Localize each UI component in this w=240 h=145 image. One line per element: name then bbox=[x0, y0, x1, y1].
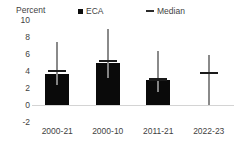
median-marker bbox=[200, 72, 218, 74]
y-axis-tick-label: 8 bbox=[4, 33, 30, 42]
chart-series-group bbox=[83, 20, 134, 122]
square-marker-icon bbox=[78, 9, 83, 14]
y-axis-tick-labels: 1086420-2 bbox=[0, 20, 30, 122]
median-marker bbox=[149, 78, 167, 80]
error-bar-whisker-overlay bbox=[56, 42, 58, 85]
x-axis-tick-label: 2000-21 bbox=[32, 126, 83, 137]
y-axis-tick-label: -2 bbox=[4, 118, 30, 127]
error-bar-whisker-overlay bbox=[107, 29, 109, 78]
chart-series-group bbox=[184, 20, 235, 122]
legend-label-median: Median bbox=[157, 6, 185, 16]
error-bar-whisker-overlay bbox=[208, 55, 210, 105]
legend-item-median: Median bbox=[146, 6, 185, 16]
x-axis-tick-label: 2011-21 bbox=[133, 126, 184, 137]
y-axis-tick-label: 4 bbox=[4, 67, 30, 76]
chart-series-group bbox=[133, 20, 184, 122]
y-axis-tick-label: 10 bbox=[4, 16, 30, 25]
median-marker bbox=[48, 70, 66, 72]
legend-item-eca: ECA bbox=[78, 6, 103, 16]
x-axis-tick-label: 2022-23 bbox=[184, 126, 235, 137]
dash-marker-icon bbox=[146, 10, 154, 12]
median-marker bbox=[99, 60, 117, 62]
legend-label-eca: ECA bbox=[86, 6, 103, 16]
y-axis-tick-label: 0 bbox=[4, 101, 30, 110]
y-axis-tick-label: 6 bbox=[4, 50, 30, 59]
x-axis-tick-labels: 2000-212000-102011-212022-23 bbox=[32, 126, 234, 140]
y-axis-title: Percent bbox=[16, 5, 45, 15]
chart-series-group bbox=[32, 20, 83, 122]
plot-area bbox=[32, 20, 234, 122]
error-bar-whisker-overlay bbox=[157, 51, 159, 93]
x-axis-tick-label: 2000-10 bbox=[83, 126, 134, 137]
y-axis-tick-label: 2 bbox=[4, 84, 30, 93]
chart-container: ECA Median Percent 1086420-2 2000-212000… bbox=[0, 0, 240, 145]
